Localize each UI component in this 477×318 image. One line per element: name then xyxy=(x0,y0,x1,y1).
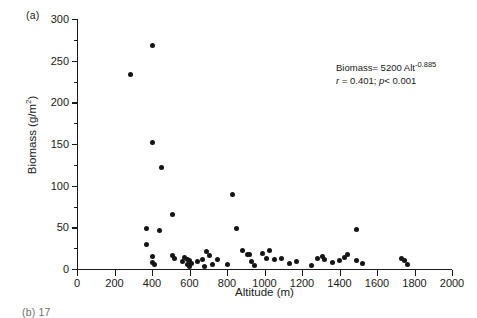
y-tick-label: 300 xyxy=(51,13,69,25)
x-tick-major xyxy=(377,270,378,276)
annotation-statistics: r = 0.401; p< 0.001 xyxy=(336,75,436,88)
y-tick-minor xyxy=(74,40,78,41)
y-tick-major xyxy=(72,61,78,62)
data-point xyxy=(230,192,235,197)
data-point xyxy=(150,140,155,145)
x-axis-title: Altitude (m) xyxy=(77,286,452,298)
x-tick-major xyxy=(302,270,303,276)
figure-panel-a: (a) (b) 17 050100150200250300 0200400600… xyxy=(0,0,477,318)
data-point xyxy=(272,257,277,262)
y-tick-minor xyxy=(74,248,78,249)
y-tick-major xyxy=(72,227,78,228)
x-tick-major xyxy=(415,270,416,276)
y-axis-title-close: ) xyxy=(26,96,38,100)
x-tick-major xyxy=(77,270,78,276)
y-tick-label: 100 xyxy=(51,180,69,192)
data-point xyxy=(200,257,205,262)
data-point xyxy=(360,261,365,266)
y-tick-major xyxy=(72,19,78,20)
annotation-equation-exponent: -0.885 xyxy=(415,60,436,69)
data-point xyxy=(189,261,194,266)
y-axis-title-exponent: 2 xyxy=(24,99,33,103)
x-tick-major xyxy=(452,270,453,276)
data-point xyxy=(309,263,314,268)
data-point xyxy=(287,261,292,266)
data-point xyxy=(210,262,215,267)
data-point xyxy=(252,263,257,268)
y-tick-minor xyxy=(74,207,78,208)
x-tick-major xyxy=(115,270,116,276)
scatter-plot-area: 050100150200250300 020040060080010001200… xyxy=(77,19,452,270)
data-point xyxy=(225,262,230,267)
y-tick-label: 50 xyxy=(57,221,69,233)
x-tick-major xyxy=(340,270,341,276)
data-point xyxy=(260,251,265,256)
annotation-p-value: < 0.001 xyxy=(384,75,416,86)
annotation-equation-text: Biomass= 5200 Alt xyxy=(336,62,415,73)
x-tick-major xyxy=(190,270,191,276)
data-point xyxy=(330,260,335,265)
data-point xyxy=(144,242,149,247)
data-point xyxy=(159,165,164,170)
y-tick-minor xyxy=(74,123,78,124)
panel-label-a: (a) xyxy=(26,9,39,21)
x-tick-major xyxy=(152,270,153,276)
y-tick-major xyxy=(72,186,78,187)
data-point xyxy=(202,264,207,269)
y-axis-title-text: Biomass (g/m xyxy=(26,104,38,174)
data-point xyxy=(170,212,175,217)
data-point xyxy=(247,252,252,257)
data-point xyxy=(128,72,133,77)
panel-label-b-stub: (b) 17 xyxy=(22,306,51,318)
data-point xyxy=(195,259,200,264)
data-point xyxy=(354,227,359,232)
data-point xyxy=(152,262,157,267)
y-axis-line xyxy=(77,19,78,270)
data-point xyxy=(215,257,220,262)
y-tick-major xyxy=(72,144,78,145)
data-point xyxy=(294,259,299,264)
data-point xyxy=(144,226,149,231)
data-point xyxy=(279,256,284,261)
data-point xyxy=(322,257,327,262)
y-tick-label: 200 xyxy=(51,96,69,108)
data-point xyxy=(264,256,269,261)
x-tick-major xyxy=(265,270,266,276)
y-tick-minor xyxy=(74,165,78,166)
data-point xyxy=(354,258,359,263)
data-point xyxy=(150,43,155,48)
data-point xyxy=(207,253,212,258)
x-tick-major xyxy=(227,270,228,276)
data-point xyxy=(315,256,320,261)
y-tick-label: 150 xyxy=(51,138,69,150)
data-point xyxy=(172,256,177,261)
y-axis-title: Biomass (g/m2) xyxy=(24,45,38,225)
y-tick-label: 0 xyxy=(63,263,69,275)
data-point xyxy=(240,248,245,253)
annotation-r-value: = 0.401; xyxy=(339,75,379,86)
y-tick-label: 250 xyxy=(51,55,69,67)
annotation-equation: Biomass= 5200 Alt-0.885 xyxy=(336,59,436,75)
data-point xyxy=(157,228,162,233)
data-point xyxy=(405,262,410,267)
regression-annotation: Biomass= 5200 Alt-0.885 r = 0.401; p< 0.… xyxy=(336,59,436,87)
data-point xyxy=(234,226,239,231)
y-tick-minor xyxy=(74,82,78,83)
data-point xyxy=(267,248,272,253)
data-point xyxy=(345,252,350,257)
data-point xyxy=(150,254,155,259)
y-tick-major xyxy=(72,102,78,103)
data-point xyxy=(337,258,342,263)
